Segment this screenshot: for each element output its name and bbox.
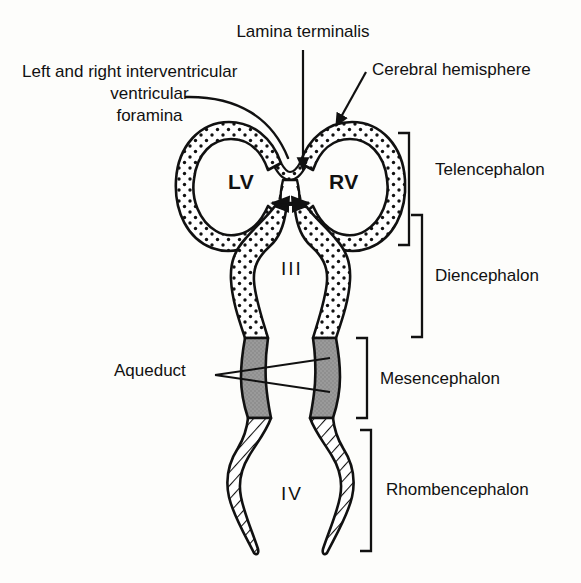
label-lateral-ventricle-left: LV: [228, 170, 254, 195]
rhombencephalon-wall-left: [227, 418, 271, 554]
region-label-diencephalon: Diencephalon: [435, 266, 539, 286]
callout-interventricular-foramina-line1: Left and right interventricular: [22, 62, 277, 82]
callout-cerebral-hemisphere: Cerebral hemisphere: [372, 60, 531, 80]
mesencephalon-wall-right: [310, 338, 340, 418]
mesencephalon-bracket: [356, 338, 367, 418]
label-lateral-ventricle-right: RV: [329, 170, 359, 195]
rhombencephalon-wall-right: [310, 418, 354, 554]
interventricular-foramen-arrow-right: [281, 203, 309, 205]
region-label-mesencephalon: Mesencephalon: [380, 369, 500, 389]
callout-interventricular-foramina-line2: ventricular: [22, 84, 277, 104]
third-ventricle-wall-right: [295, 206, 350, 338]
rhombencephalon-bracket: [360, 430, 371, 551]
third-ventricle-wall-left: [231, 206, 286, 338]
region-label-telencephalon: Telencephalon: [435, 160, 545, 180]
callout-lamina-terminalis: Lamina terminalis: [213, 22, 393, 42]
median-roof-wall: [275, 163, 305, 204]
aqueduct-leader: [215, 358, 330, 392]
region-label-rhombencephalon: Rhombencephalon: [386, 480, 529, 500]
callout-aqueduct: Aqueduct: [114, 361, 186, 381]
callout-interventricular-foramina-line3: foramina: [22, 106, 277, 126]
diencephalon-bracket: [411, 215, 422, 337]
cerebral-hemisphere-leader: [336, 72, 366, 126]
label-fourth-ventricle: IV: [281, 483, 303, 505]
mesencephalon-wall-left: [241, 338, 271, 418]
label-third-ventricle: III: [281, 258, 303, 280]
